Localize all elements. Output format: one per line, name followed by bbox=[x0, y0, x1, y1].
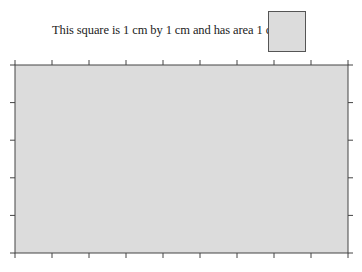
grid-frame bbox=[0, 0, 362, 272]
grid-area bbox=[15, 65, 348, 253]
